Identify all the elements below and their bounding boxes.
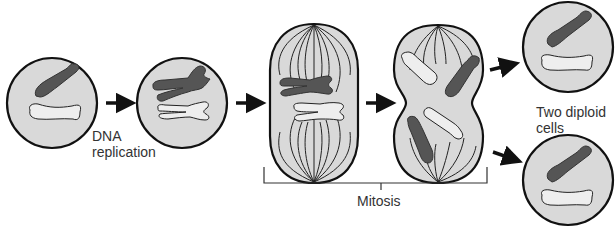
daughter-cell-top (523, 2, 613, 92)
light-chromosome (541, 190, 592, 206)
anaphase-cell (394, 25, 483, 183)
mitosis-diagram (0, 0, 615, 230)
metaphase-cell (270, 24, 358, 183)
mitosis-label: Mitosis (357, 193, 401, 209)
parent-cell (7, 58, 97, 148)
dna-replication-label: DNA replication (92, 128, 156, 160)
daughters-line2: cells (536, 120, 606, 136)
light-chromosome (541, 55, 592, 71)
arrow-to-bottom-daughter (493, 152, 513, 159)
two-diploid-cells-label: Two diploid cells (536, 104, 606, 136)
light-chromosome-aligned (294, 103, 344, 121)
arrow-to-top-daughter (490, 65, 510, 70)
dna-replication-line1: DNA (92, 128, 156, 144)
dna-replication-line2: replication (92, 144, 156, 160)
daughter-cell-bottom (523, 135, 613, 225)
daughters-line1: Two diploid (536, 104, 606, 120)
